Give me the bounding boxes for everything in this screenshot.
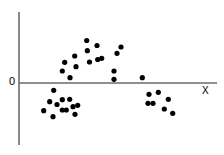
data-point bbox=[72, 53, 77, 58]
data-point bbox=[162, 106, 167, 111]
data-points-group bbox=[41, 38, 175, 119]
data-point bbox=[62, 60, 67, 65]
data-point bbox=[87, 59, 92, 64]
data-point bbox=[70, 104, 75, 109]
data-point bbox=[51, 88, 56, 93]
data-point bbox=[150, 101, 155, 106]
data-point bbox=[145, 101, 150, 106]
y-axis-origin-label: 0 bbox=[9, 76, 15, 87]
data-point bbox=[111, 77, 116, 82]
scatter-plot-figure: 0 X bbox=[0, 0, 224, 155]
plot-canvas bbox=[0, 0, 224, 155]
data-point bbox=[166, 97, 171, 102]
data-point bbox=[111, 68, 116, 73]
data-point bbox=[64, 107, 69, 112]
data-point bbox=[84, 38, 89, 43]
data-point bbox=[67, 97, 72, 102]
data-point bbox=[85, 48, 90, 53]
data-point bbox=[140, 75, 145, 80]
data-point bbox=[67, 75, 72, 80]
data-point bbox=[94, 43, 99, 48]
data-point bbox=[114, 51, 119, 56]
data-point bbox=[156, 90, 161, 95]
axes-group bbox=[19, 12, 217, 145]
data-point bbox=[60, 97, 65, 102]
data-point bbox=[118, 44, 123, 49]
data-point bbox=[99, 56, 104, 61]
data-point bbox=[73, 64, 78, 69]
x-axis-label: X bbox=[202, 85, 209, 96]
data-point bbox=[75, 103, 80, 108]
data-point bbox=[60, 68, 65, 73]
data-point bbox=[146, 92, 151, 97]
data-point bbox=[41, 108, 46, 113]
data-point bbox=[47, 99, 52, 104]
data-point bbox=[72, 112, 77, 117]
data-point bbox=[54, 102, 59, 107]
data-point bbox=[170, 111, 175, 116]
data-point bbox=[50, 114, 55, 119]
